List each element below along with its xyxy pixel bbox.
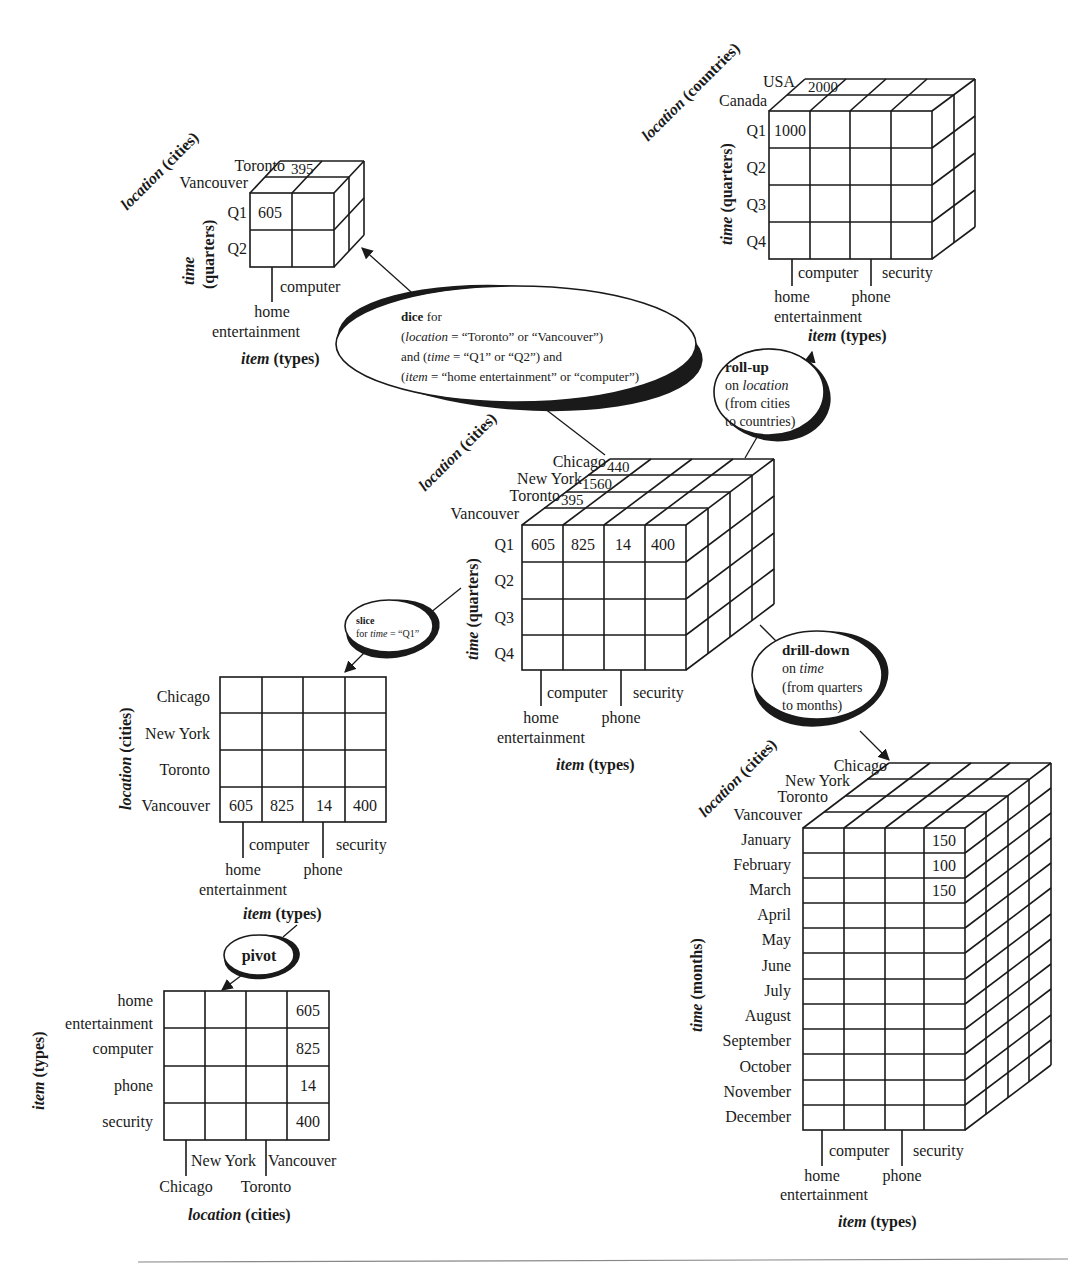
axis-location: location (cities) bbox=[188, 1206, 291, 1224]
cell-q1-home: 1000 bbox=[774, 122, 806, 139]
loc-toronto: Toronto bbox=[235, 157, 285, 174]
row-chicago: Chicago bbox=[157, 688, 210, 706]
loc-vancouver: Vancouver bbox=[734, 806, 803, 823]
loc-vancouver: Vancouver bbox=[180, 174, 249, 191]
slice-condition: for time = “Q1” bbox=[356, 628, 419, 639]
slice-operation: slice for time = “Q1” bbox=[342, 588, 461, 672]
item-computer: computer bbox=[829, 1142, 890, 1160]
item-home: home bbox=[225, 861, 261, 878]
axis-item: item (types) bbox=[30, 1031, 48, 1110]
item-phone: phone bbox=[601, 709, 640, 727]
rollup-operation: roll-up on location (from cities to coun… bbox=[708, 340, 838, 458]
time-q3: Q3 bbox=[494, 609, 514, 626]
footer-divider bbox=[138, 1259, 1068, 1262]
cell-phone: 14 bbox=[300, 1077, 316, 1094]
axis-time: time bbox=[180, 257, 197, 285]
month-december: December bbox=[725, 1108, 791, 1125]
row-phone: phone bbox=[114, 1077, 153, 1095]
row-entertainment: entertainment bbox=[65, 1015, 154, 1032]
item-home: home bbox=[523, 709, 559, 726]
time-q2: Q2 bbox=[746, 159, 766, 176]
cell-computer: 825 bbox=[296, 1040, 320, 1057]
item-security: security bbox=[913, 1142, 964, 1160]
rollup-cube: 2000 1000 USA Canada Q1 Q2 Q3 Q4 compute… bbox=[638, 39, 975, 345]
pivot-operation: pivot bbox=[222, 925, 302, 990]
cell-q1-home: 605 bbox=[258, 204, 282, 221]
cell-mar-security: 150 bbox=[932, 882, 956, 899]
dice-condition-location: (location = “Toronto” or “Vancouver”) bbox=[401, 329, 603, 344]
item-home: home bbox=[254, 303, 290, 320]
row-newyork: New York bbox=[145, 725, 210, 742]
month-november: November bbox=[723, 1083, 791, 1100]
col-newyork: New York bbox=[191, 1152, 256, 1169]
time-q1: Q1 bbox=[746, 122, 766, 139]
pivot-label: pivot bbox=[242, 947, 277, 965]
month-september: September bbox=[723, 1032, 792, 1050]
axis-time: time (quarters) bbox=[464, 558, 482, 660]
time-q3: Q3 bbox=[746, 196, 766, 213]
rollup-label: roll-up bbox=[725, 359, 769, 375]
axis-time-unit: (quarters) bbox=[200, 220, 218, 289]
item-entertainment: entertainment bbox=[780, 1186, 869, 1203]
item-computer: computer bbox=[249, 836, 310, 854]
row-vancouver: Vancouver bbox=[142, 797, 211, 814]
axis-time: time (quarters) bbox=[718, 143, 736, 245]
axis-item: item (types) bbox=[838, 1213, 917, 1231]
dice-condition-time: and (time = “Q1” or “Q2”) and bbox=[401, 349, 563, 364]
axis-location: location (cities) bbox=[415, 410, 500, 495]
slice-label: slice bbox=[356, 615, 375, 626]
item-entertainment: entertainment bbox=[497, 729, 586, 746]
time-q1: Q1 bbox=[494, 536, 514, 553]
item-home: home bbox=[774, 288, 810, 305]
time-q2: Q2 bbox=[494, 572, 514, 589]
dice-operation: dice for (location = “Toronto” or “Vanco… bbox=[333, 248, 707, 455]
loc-newyork: New York bbox=[785, 772, 850, 789]
slice-table: Chicago New York Toronto Vancouver 605 8… bbox=[117, 677, 387, 923]
month-october: October bbox=[739, 1058, 791, 1075]
cell-newyork: 1560 bbox=[582, 476, 612, 492]
time-q1: Q1 bbox=[227, 204, 247, 221]
dice-cube: 395 605 Toronto Vancouver Q1 Q2 computer… bbox=[117, 129, 364, 368]
col-chicago: Chicago bbox=[159, 1178, 212, 1196]
time-q2: Q2 bbox=[227, 240, 247, 257]
loc-toronto: Toronto bbox=[510, 487, 560, 504]
cell-toronto: 395 bbox=[291, 161, 314, 177]
drilldown-to: to months) bbox=[782, 698, 843, 714]
cell-toronto: 395 bbox=[561, 492, 584, 508]
cell-chicago: 440 bbox=[607, 459, 630, 475]
cell-home: 605 bbox=[229, 797, 253, 814]
drilldown-cube: Chicago New York Toronto Vancouver Janua… bbox=[688, 736, 1051, 1231]
cell-home: 605 bbox=[296, 1002, 320, 1019]
row-computer: computer bbox=[93, 1040, 154, 1058]
axis-location: location (cities) bbox=[117, 707, 135, 810]
axis-time: time (months) bbox=[688, 938, 706, 1032]
drilldown-label: drill-down bbox=[782, 642, 850, 658]
central-cube: 605 825 14 400 440 1560 395 Chicago New … bbox=[415, 410, 774, 774]
item-security: security bbox=[336, 836, 387, 854]
loc-newyork: New York bbox=[517, 470, 582, 487]
month-august: August bbox=[745, 1007, 792, 1025]
row-toronto: Toronto bbox=[160, 761, 210, 778]
dice-condition-item: (item = “home entertainment” or “compute… bbox=[401, 369, 639, 384]
axis-item: item (types) bbox=[556, 756, 635, 774]
cell-security: 400 bbox=[296, 1113, 320, 1130]
month-june: June bbox=[762, 957, 791, 974]
item-entertainment: entertainment bbox=[199, 881, 288, 898]
pivot-table: home entertainment computer phone securi… bbox=[30, 991, 337, 1224]
month-july: July bbox=[764, 982, 791, 1000]
cell-jan-security: 150 bbox=[932, 832, 956, 849]
col-toronto: Toronto bbox=[241, 1178, 291, 1195]
olap-operations-diagram: 605 825 14 400 440 1560 395 Chicago New … bbox=[0, 0, 1085, 1281]
item-computer: computer bbox=[798, 264, 859, 282]
item-phone: phone bbox=[882, 1167, 921, 1185]
item-phone: phone bbox=[851, 288, 890, 306]
cell-q1-computer: 825 bbox=[571, 536, 595, 553]
cell-q1-security: 400 bbox=[651, 536, 675, 553]
drilldown-on: on time bbox=[782, 661, 824, 676]
drilldown-from: (from quarters bbox=[782, 680, 862, 696]
loc-vancouver: Vancouver bbox=[451, 505, 520, 522]
item-security: security bbox=[633, 684, 684, 702]
item-entertainment: entertainment bbox=[212, 323, 301, 340]
time-q4: Q4 bbox=[746, 233, 766, 250]
time-q4: Q4 bbox=[494, 645, 514, 662]
